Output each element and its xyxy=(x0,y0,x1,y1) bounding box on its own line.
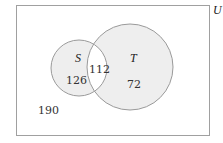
intersection-count: 112 xyxy=(89,63,110,76)
set-t-only-count: 72 xyxy=(127,78,141,91)
set-s-only-count: 126 xyxy=(66,74,87,87)
outside-count: 190 xyxy=(38,104,59,117)
universe-label: U xyxy=(213,3,223,17)
set-s-label: S xyxy=(75,51,81,65)
venn-diagram: U S T 126 112 72 190 xyxy=(0,0,223,143)
